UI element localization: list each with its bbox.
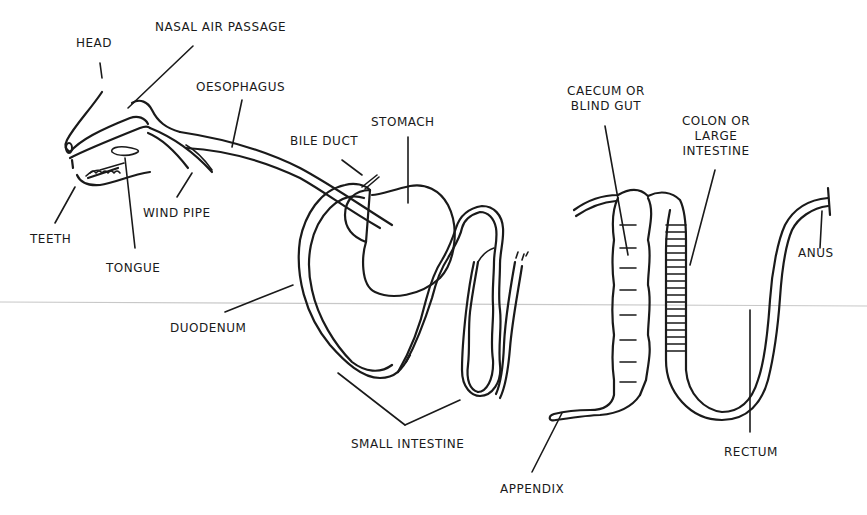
- digestive-system-diagram: HEAD NASAL AIR PASSAGE OESOPHAGUS BILE D…: [0, 0, 867, 515]
- label-caecum-line-1: CAECUM OR: [554, 84, 658, 99]
- label-stomach: STOMACH: [371, 115, 435, 130]
- label-anus: ANUS: [798, 246, 834, 261]
- label-oesophagus: OESOPHAGUS: [196, 80, 285, 95]
- label-wind-pipe: WIND PIPE: [143, 206, 211, 221]
- label-teeth: TEETH: [30, 232, 71, 247]
- label-head: HEAD: [76, 36, 112, 51]
- label-colon-line-2: LARGE: [674, 129, 758, 144]
- small-intestine-shape: [398, 206, 528, 398]
- label-duodenum: DUODENUM: [170, 321, 246, 336]
- label-colon-line-3: INTESTINE: [674, 144, 758, 159]
- label-tongue: TONGUE: [106, 261, 160, 276]
- label-colon-line-1: COLON OR: [674, 114, 758, 129]
- label-rectum: RECTUM: [724, 445, 778, 460]
- label-small-intestine: SMALL INTESTINE: [351, 437, 464, 452]
- head-shape: [66, 92, 212, 185]
- label-bile-duct: BILE DUCT: [290, 134, 358, 149]
- colon-shape: [648, 188, 830, 420]
- oesophagus-shape: [180, 132, 392, 228]
- label-colon: COLON OR LARGE INTESTINE: [674, 114, 758, 159]
- stomach-shape: [299, 175, 455, 378]
- label-appendix: APPENDIX: [500, 482, 564, 497]
- label-caecum-line-2: BLIND GUT: [554, 99, 658, 114]
- leader-lines: [55, 46, 822, 472]
- label-nasal-air-passage: NASAL AIR PASSAGE: [155, 20, 286, 35]
- scan-line: [0, 302, 867, 306]
- label-caecum: CAECUM OR BLIND GUT: [554, 84, 658, 114]
